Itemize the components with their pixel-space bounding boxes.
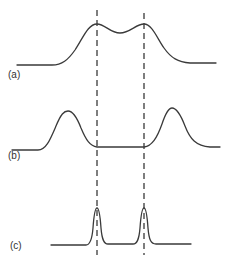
panel-label-a: (a): [8, 69, 20, 80]
peak-resolution-diagram: [0, 0, 228, 261]
panel-label-c: (c): [10, 240, 22, 251]
trace-b: [12, 108, 220, 150]
trace-a: [17, 24, 216, 65]
panel-label-b: (b): [8, 150, 20, 161]
trace-c: [51, 208, 191, 245]
